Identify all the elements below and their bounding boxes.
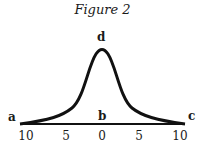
tick-label: 0 — [98, 129, 106, 143]
tick-label: 5 — [135, 129, 143, 143]
tick-label: 5 — [62, 129, 70, 143]
label-a: a — [8, 110, 16, 124]
tick-label: 10 — [18, 129, 33, 143]
label-b: b — [98, 109, 106, 123]
label-c: c — [188, 109, 195, 123]
label-d: d — [97, 30, 105, 44]
tick-label: 10 — [172, 129, 187, 143]
